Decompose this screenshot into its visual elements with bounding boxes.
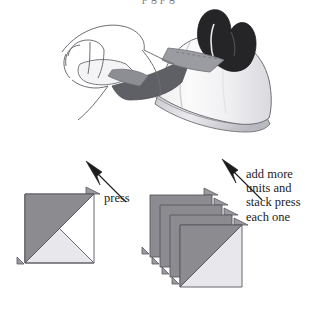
clipped-header-text: p g p g — [0, 0, 317, 5]
finger-3 — [64, 54, 70, 78]
iron-pressing-illustration — [50, 8, 290, 138]
arrow-head — [222, 159, 238, 183]
stack-instruction-line-4: each one — [246, 210, 316, 224]
dog-ear-bottom-left — [152, 257, 159, 264]
dog-ear-bottom-left — [172, 277, 179, 284]
stack-instruction-label: add more units and stack press each one — [246, 167, 316, 224]
finger-1 — [68, 40, 104, 56]
dog-ear-bottom-left — [142, 247, 149, 254]
dog-ear-bottom-left — [162, 267, 169, 274]
stack-instruction-line-3: stack press — [246, 195, 316, 209]
stack-unit-1 — [172, 218, 248, 287]
fabric-edge-sweep — [78, 86, 108, 120]
stack-instruction-line-2: units and — [246, 181, 316, 195]
dog-ear-bottom-left — [17, 257, 24, 264]
dog-ear-top-right — [224, 208, 238, 215]
stack-instruction-line-1: add more — [246, 167, 316, 181]
illustration-page: p g p g — [0, 0, 317, 311]
press-label: press — [104, 192, 130, 206]
arrow-head — [86, 161, 102, 185]
